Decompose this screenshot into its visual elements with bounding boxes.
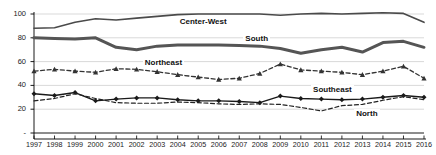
series-label-north: North	[354, 109, 379, 118]
data-point-marker	[278, 61, 283, 66]
data-point-marker	[339, 97, 344, 102]
data-point-marker	[360, 97, 365, 102]
data-point-marker	[114, 97, 119, 102]
data-point-marker	[52, 93, 57, 98]
y-tick-label: 80	[4, 34, 26, 42]
data-point-marker	[278, 94, 283, 99]
data-point-marker	[32, 91, 37, 96]
y-tick-label: 20	[4, 105, 26, 113]
series-line-northeast	[34, 64, 424, 79]
series-label-southeast: Southeast	[311, 85, 354, 94]
data-point-marker	[421, 76, 426, 81]
data-point-marker	[380, 95, 385, 100]
y-tick-label: 100	[4, 10, 26, 18]
data-point-marker	[134, 95, 139, 100]
data-point-marker	[319, 97, 324, 102]
series-line-center-west	[34, 13, 424, 28]
data-point-marker	[155, 95, 160, 100]
y-tick-label: -	[4, 129, 26, 137]
data-point-marker	[298, 96, 303, 101]
x-tick-label: 2016	[412, 141, 436, 149]
series-label-south: South	[243, 34, 270, 43]
series-label-center-west: Center-West	[178, 17, 229, 26]
data-point-marker	[93, 98, 98, 103]
data-point-marker	[237, 99, 242, 104]
y-tick-label: 60	[4, 58, 26, 66]
data-point-marker	[175, 97, 180, 102]
series-line-south	[34, 38, 424, 53]
series-label-northeast: Northeast	[143, 58, 184, 67]
axis-lines	[31, 12, 427, 139]
data-point-marker	[216, 98, 221, 103]
y-tick-label: 40	[4, 81, 26, 89]
